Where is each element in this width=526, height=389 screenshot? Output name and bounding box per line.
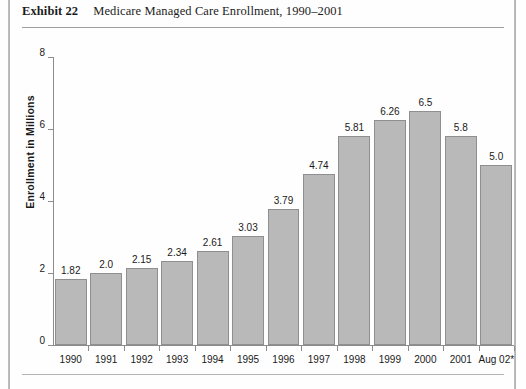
- exhibit-page: Exhibit 22Medicare Managed Care Enrollme…: [0, 0, 526, 389]
- bar: [409, 111, 441, 345]
- x-axis-tick-label: 1999: [372, 354, 407, 365]
- x-axis-tick-label: 1991: [88, 354, 123, 365]
- plot-area: 024681.8219902.019912.1519922.3419932.61…: [53, 57, 514, 345]
- bar: [338, 136, 370, 345]
- bar-value-label: 5.8: [443, 122, 478, 133]
- x-axis-tick: [124, 346, 125, 351]
- bar: [303, 174, 335, 345]
- x-axis-tick: [443, 346, 444, 351]
- bar-value-label: 4.74: [301, 160, 336, 171]
- y-axis-tick: [48, 57, 54, 58]
- bar: [55, 279, 87, 345]
- bar: [197, 251, 229, 345]
- x-axis-tick-label: 2000: [408, 354, 443, 365]
- bar-value-label: 2.34: [159, 247, 194, 258]
- bar-value-label: 3.03: [230, 222, 265, 233]
- x-axis-tick-label: 1995: [230, 354, 265, 365]
- bar: [374, 120, 406, 345]
- y-axis-tick: [48, 345, 54, 346]
- bar-value-label: 6.5: [408, 97, 443, 108]
- x-axis-tick: [372, 346, 373, 351]
- x-axis-tick-label: 1998: [337, 354, 372, 365]
- bar-value-label: 2.15: [124, 254, 159, 265]
- y-axis-tick-label: 2: [21, 268, 45, 269]
- x-axis-tick: [195, 346, 196, 351]
- y-axis-title: Enrollment in Millions: [24, 52, 36, 252]
- bar: [445, 136, 477, 345]
- bar-chart: Enrollment in Millions 024681.8219902.01…: [0, 0, 526, 389]
- x-axis-tick: [408, 346, 409, 351]
- bar-value-label: 1.82: [53, 265, 88, 276]
- bar-value-label: 3.79: [266, 195, 301, 206]
- x-axis-tick-label: 2001: [443, 354, 478, 365]
- x-axis-tick: [337, 346, 338, 351]
- x-axis-tick-label: 1993: [159, 354, 194, 365]
- y-axis-tick-label: 0: [21, 340, 45, 341]
- x-axis-tick-label: 1990: [53, 354, 88, 365]
- x-axis-tick: [266, 346, 267, 351]
- bar: [232, 236, 264, 345]
- bar-value-label: 2.61: [195, 237, 230, 248]
- bar-value-label: 5.81: [337, 122, 372, 133]
- y-axis-tick-label: 6: [21, 124, 45, 125]
- bar: [126, 268, 158, 345]
- y-axis-tick-label: 4: [21, 196, 45, 197]
- x-axis-tick-label: 1997: [301, 354, 336, 365]
- x-axis-tick: [514, 346, 515, 351]
- bar-value-label: 6.26: [372, 106, 407, 117]
- y-axis-tick: [48, 201, 54, 202]
- x-axis-tick-label: 1994: [195, 354, 230, 365]
- x-axis-tick-label: 1992: [124, 354, 159, 365]
- x-axis-tick: [301, 346, 302, 351]
- y-axis-tick: [48, 129, 54, 130]
- y-axis-tick-label: 8: [21, 52, 45, 53]
- bar-value-label: 2.0: [88, 259, 123, 270]
- bar: [90, 273, 122, 345]
- x-axis-tick-label: Aug 02*: [479, 354, 514, 365]
- x-axis-tick: [479, 346, 480, 351]
- bar: [268, 209, 300, 345]
- x-axis-tick: [230, 346, 231, 351]
- bar: [480, 165, 512, 345]
- x-axis-tick: [159, 346, 160, 351]
- x-axis-line: [53, 345, 514, 346]
- bar: [161, 261, 193, 345]
- x-axis-tick: [88, 346, 89, 351]
- bar-value-label: 5.0: [479, 151, 514, 162]
- x-axis-tick-label: 1996: [266, 354, 301, 365]
